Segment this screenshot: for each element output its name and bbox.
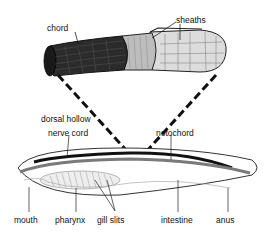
lancelet-body <box>18 148 257 195</box>
label-notochord: notochord <box>156 128 194 138</box>
label-dorsal-hollow: dorsal hollow <box>41 114 91 124</box>
label-anus: anus <box>216 215 234 225</box>
label-mouth: mouth <box>14 215 38 225</box>
zoom-line-right <box>145 75 216 153</box>
label-sheaths: sheaths <box>176 15 206 25</box>
zoom-line-left <box>58 75 126 150</box>
lancelet-diagram: chord sheaths dorsal hollow nerve cord n… <box>0 0 266 239</box>
notochord-magnified <box>44 28 226 76</box>
label-chord: chord <box>47 23 69 33</box>
label-pharynx: pharynx <box>55 215 86 225</box>
label-nerve-cord: nerve cord <box>48 128 88 138</box>
label-intestine: intestine <box>161 215 193 225</box>
label-gill-slits: gill slits <box>97 215 124 225</box>
